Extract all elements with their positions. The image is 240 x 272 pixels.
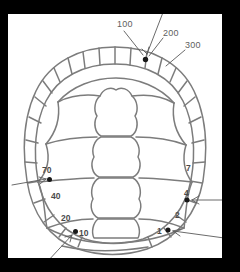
- marker-right-1-dot: [166, 228, 171, 233]
- marker-right-4-dot: [185, 198, 190, 203]
- marker-left-10-dot: [73, 229, 78, 234]
- reference-label-100: 100: [117, 19, 133, 29]
- marker-left-70-dot: [47, 177, 52, 182]
- reference-label-300: 300: [185, 40, 201, 50]
- scute-label-7: 7: [186, 163, 191, 173]
- reference-label-200: 200: [163, 28, 179, 38]
- figure-container: 100 200 300 70 40 20 10 7 4 2 1: [0, 0, 240, 272]
- scute-label-40: 40: [51, 191, 61, 201]
- scute-label-4: 4: [184, 188, 189, 198]
- marginal-divider: [130, 48, 131, 65]
- scute-label-2: 2: [175, 210, 180, 220]
- scute-label-70: 70: [42, 165, 52, 175]
- marginal-divider: [99, 48, 100, 65]
- scute-label-1: 1: [157, 226, 162, 236]
- marginal-divider: [193, 162, 205, 163]
- scute-label-20: 20: [61, 213, 71, 223]
- carapace-diagram: 100 200 300 70 40 20 10 7 4 2 1: [0, 0, 240, 272]
- marginal-divider: [25, 162, 37, 163]
- scute-label-10: 10: [79, 228, 89, 238]
- marker-top-dot: [143, 57, 148, 62]
